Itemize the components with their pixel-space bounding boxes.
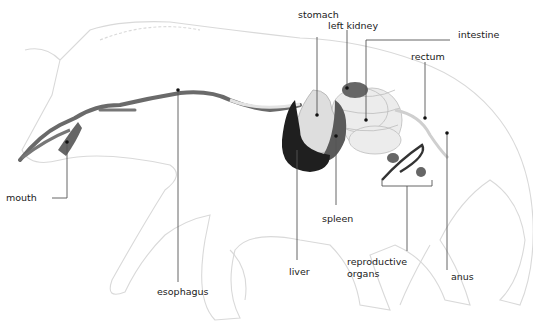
label-stomach: stomach — [298, 9, 339, 20]
label-anus: anus — [451, 271, 474, 282]
label-esophagus: esophagus — [157, 286, 208, 297]
label-rectum: rectum — [411, 51, 445, 62]
anatomy-diagram: mouth esophagus stomach left kidney inte… — [0, 0, 533, 328]
label-intestine: intestine — [458, 29, 499, 40]
esophagus-organ — [20, 92, 300, 160]
label-left-kidney: left kidney — [328, 20, 378, 31]
rectum-organ — [395, 110, 448, 158]
label-reproductive-organs-line2: organs — [347, 268, 379, 279]
label-spleen: spleen — [322, 213, 353, 224]
label-reproductive-organs-line1: reproductive — [347, 256, 407, 267]
label-mouth: mouth — [6, 192, 37, 203]
left-kidney-organ — [342, 82, 368, 98]
label-liver: liver — [289, 266, 310, 277]
